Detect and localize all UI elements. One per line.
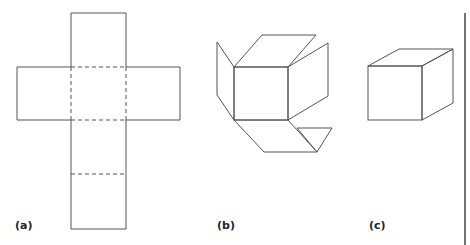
partially-folded-cube <box>217 35 332 152</box>
cube-net <box>17 13 180 229</box>
assembled-cube <box>368 49 453 120</box>
figure-canvas <box>0 0 470 245</box>
panel-label-a: (a) <box>15 219 32 232</box>
panel-label-b: (b) <box>217 219 235 232</box>
panel-label-c: (c) <box>369 219 386 232</box>
